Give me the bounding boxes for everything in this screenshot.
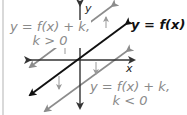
upper-line-label-cond: k > 0 — [9, 34, 91, 48]
lower-line-label-cond: k < 0 — [89, 94, 171, 108]
lower-line-label: y = f(x) + k, k < 0 — [89, 80, 171, 108]
upper-line-label: y = f(x) + k, k > 0 — [9, 20, 91, 48]
lower-line-label-eq: y = f(x) + k, — [89, 80, 171, 94]
x-axis-label: x — [126, 63, 133, 75]
main-line-label: y = f(x) — [131, 18, 185, 32]
upper-line-label-eq: y = f(x) + k, — [9, 20, 91, 34]
y-axis-label: y — [85, 3, 92, 15]
